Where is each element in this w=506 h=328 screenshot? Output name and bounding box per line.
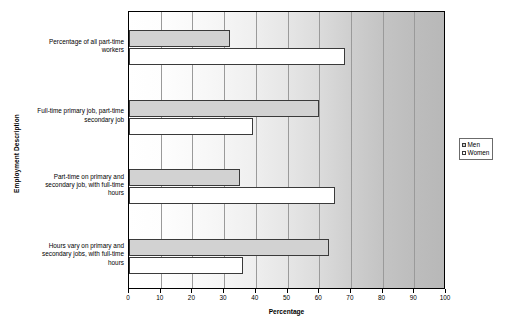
x-tick-label: 30	[210, 294, 236, 301]
bar-chart: Employment Description Percentage of all…	[0, 0, 506, 328]
legend-item-women: Women	[462, 149, 489, 157]
category-label-line: workers	[20, 46, 124, 54]
bar-men-3	[129, 169, 240, 186]
gridline	[383, 12, 384, 288]
x-tick-label: 100	[432, 294, 458, 301]
category-label-1: Percentage of all part-timeworkers	[20, 38, 124, 54]
x-axis-tick-labels: 0102030405060708090100	[0, 294, 506, 304]
gridline	[351, 12, 352, 288]
bar-men-1	[129, 30, 230, 47]
x-tick	[287, 289, 288, 293]
x-tick-label: 90	[400, 294, 426, 301]
category-label-3: Part-time on primary andsecondary job, w…	[20, 173, 124, 198]
x-tick-label: 50	[274, 294, 300, 301]
y-axis-title: Employment Description	[13, 94, 20, 214]
x-tick	[445, 289, 446, 293]
bar-men-4	[129, 239, 329, 256]
legend: MenWomen	[459, 138, 493, 160]
legend-swatch-men	[462, 143, 466, 147]
legend-label: Women	[468, 149, 490, 157]
category-label-column: Percentage of all part-timeworkersFull-t…	[20, 11, 124, 289]
x-tick-label: 70	[337, 294, 363, 301]
bar-women-3	[129, 187, 335, 204]
bar-women-4	[129, 257, 243, 274]
x-tick	[382, 289, 383, 293]
x-tick-label: 0	[115, 294, 141, 301]
x-tick	[160, 289, 161, 293]
category-label-line: secondary job, with full-time	[20, 181, 124, 189]
x-tick-label: 40	[242, 294, 268, 301]
category-label-line: Full-time primary job, part-time	[20, 107, 124, 115]
category-label-line: secondary jobs, with full-time	[20, 250, 124, 258]
legend-swatch-women	[462, 151, 466, 155]
x-tick	[128, 289, 129, 293]
x-tick	[413, 289, 414, 293]
x-tick	[255, 289, 256, 293]
bar-women-1	[129, 48, 345, 65]
x-tick-label: 10	[147, 294, 173, 301]
x-tick-label: 20	[178, 294, 204, 301]
category-label-4: Hours vary on primary andsecondary jobs,…	[20, 242, 124, 267]
category-label-line: Part-time on primary and	[20, 173, 124, 181]
legend-item-men: Men	[462, 141, 489, 149]
x-tick	[223, 289, 224, 293]
x-axis-ticks	[128, 289, 445, 293]
x-tick-label: 80	[369, 294, 395, 301]
bar-men-2	[129, 100, 319, 117]
x-tick	[318, 289, 319, 293]
category-label-line: Percentage of all part-time	[20, 38, 124, 46]
x-tick	[350, 289, 351, 293]
category-label-2: Full-time primary job, part-timesecondar…	[20, 107, 124, 123]
category-label-line: hours	[20, 259, 124, 267]
x-tick-label: 60	[305, 294, 331, 301]
category-label-line: Hours vary on primary and	[20, 242, 124, 250]
bar-women-2	[129, 118, 253, 135]
legend-label: Men	[468, 141, 480, 149]
plot-area	[128, 11, 445, 289]
x-tick	[191, 289, 192, 293]
gridline	[414, 12, 415, 288]
x-axis-title: Percentage	[128, 308, 445, 315]
category-label-line: secondary job	[20, 116, 124, 124]
category-label-line: hours	[20, 189, 124, 197]
